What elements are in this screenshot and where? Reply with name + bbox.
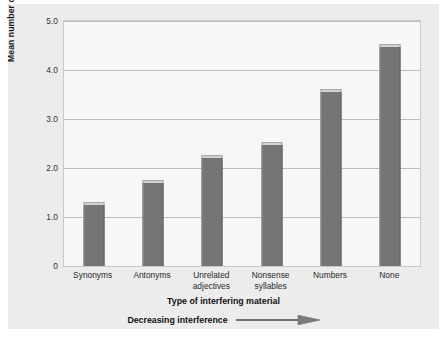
- bar-slot: [242, 21, 301, 266]
- bar[interactable]: [320, 92, 341, 266]
- annotation-group: Decreasing interference: [8, 314, 439, 326]
- bar[interactable]: [142, 183, 163, 266]
- bar[interactable]: [380, 47, 401, 266]
- y-tick-label: 4.0: [12, 65, 58, 75]
- y-tick-label: 1.0: [12, 212, 58, 222]
- x-tick-label-line: None: [351, 270, 427, 281]
- x-axis-title: Type of interfering material: [8, 296, 439, 306]
- plot-area: [63, 20, 421, 267]
- annotation-label: Decreasing interference: [127, 315, 227, 325]
- bar-top-cap: [380, 44, 401, 47]
- y-tick-label: 0: [12, 261, 58, 271]
- bar[interactable]: [202, 158, 223, 266]
- bar-slot: [64, 21, 123, 266]
- bar-top-cap: [142, 180, 163, 183]
- bar[interactable]: [83, 205, 104, 266]
- bar-top-cap: [83, 202, 104, 205]
- x-tick-label-line: syllables: [233, 281, 309, 292]
- bar-series: [64, 21, 420, 266]
- bar-top-cap: [320, 89, 341, 92]
- chart-figure: Mean number of test items recalled 01.02…: [8, 4, 439, 329]
- y-tick-label: 2.0: [12, 163, 58, 173]
- bar-slot: [183, 21, 242, 266]
- bar-slot: [361, 21, 420, 266]
- y-tick-label: 3.0: [12, 114, 58, 124]
- x-axis-ticks: SynonymsAntonymsUnrelatedadjectivesNonse…: [63, 270, 421, 296]
- bar-slot: [123, 21, 182, 266]
- bar[interactable]: [261, 145, 282, 266]
- x-tick-label: None: [351, 270, 427, 281]
- right-arrow-icon: [236, 314, 320, 326]
- y-tick-label: 5.0: [12, 16, 58, 26]
- bar-top-cap: [261, 142, 282, 145]
- bar-top-cap: [202, 155, 223, 158]
- y-axis-ticks: 01.02.03.04.05.0: [8, 20, 58, 267]
- bar-slot: [301, 21, 360, 266]
